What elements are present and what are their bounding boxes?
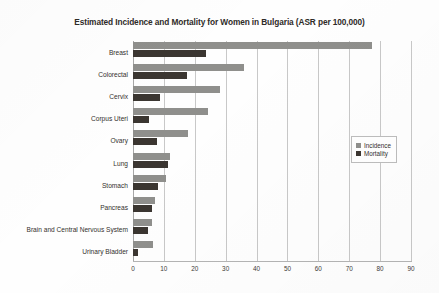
bar-mortality bbox=[133, 116, 149, 123]
legend-swatch-icon bbox=[356, 151, 361, 156]
bar-incidence bbox=[133, 175, 166, 182]
bar-mortality bbox=[133, 94, 160, 101]
category-row: Colorectal bbox=[133, 63, 411, 85]
x-tick-label: 70 bbox=[346, 265, 353, 272]
category-label: Lung bbox=[113, 159, 128, 166]
legend-swatch-icon bbox=[356, 143, 361, 148]
bar-mortality bbox=[133, 72, 187, 79]
category-label: Pancreas bbox=[100, 203, 128, 210]
category-row: Breast bbox=[133, 41, 411, 63]
bar-chart: Estimated Incidence and Mortality for Wo… bbox=[0, 0, 439, 293]
category-row: Stomach bbox=[133, 174, 411, 196]
category-label: Brain and Central Nervous System bbox=[26, 225, 128, 232]
bar-incidence bbox=[133, 197, 155, 204]
category-row: Pancreas bbox=[133, 196, 411, 218]
x-tick-label: 0 bbox=[131, 265, 135, 272]
bar-incidence bbox=[133, 153, 170, 160]
category-label: Cervix bbox=[109, 93, 128, 100]
legend-entry: Incidence bbox=[356, 142, 391, 149]
x-tick-label: 40 bbox=[253, 265, 260, 272]
legend-label: Incidence bbox=[364, 142, 391, 149]
bar-incidence bbox=[133, 241, 153, 248]
bar-mortality bbox=[133, 161, 168, 168]
x-axis-line bbox=[133, 261, 412, 262]
bar-mortality bbox=[133, 50, 206, 57]
chart-legend: IncidenceMortality bbox=[351, 136, 397, 163]
bar-mortality bbox=[133, 183, 158, 190]
bar-incidence bbox=[133, 108, 208, 115]
category-label: Urinary Bladder bbox=[82, 247, 128, 254]
category-row: Brain and Central Nervous System bbox=[133, 218, 411, 240]
bar-mortality bbox=[133, 205, 152, 212]
x-tick-label: 80 bbox=[377, 265, 384, 272]
bar-incidence bbox=[133, 86, 220, 93]
x-tick-label: 90 bbox=[407, 265, 414, 272]
bar-mortality bbox=[133, 249, 138, 256]
gridline-90 bbox=[411, 41, 412, 262]
category-row: Corpus Uteri bbox=[133, 107, 411, 129]
category-label: Corpus Uteri bbox=[91, 115, 128, 122]
x-tick-label: 30 bbox=[222, 265, 229, 272]
x-tick-label: 50 bbox=[284, 265, 291, 272]
category-row: Urinary Bladder bbox=[133, 240, 411, 262]
category-row: Cervix bbox=[133, 85, 411, 107]
bar-mortality bbox=[133, 227, 148, 234]
x-tick-label: 20 bbox=[191, 265, 198, 272]
legend-entry: Mortality bbox=[356, 150, 391, 157]
category-label: Stomach bbox=[102, 181, 128, 188]
bar-incidence bbox=[133, 42, 372, 49]
category-label: Colorectal bbox=[98, 71, 128, 78]
bar-incidence bbox=[133, 64, 244, 71]
category-label: Ovary bbox=[110, 137, 128, 144]
x-tick-label: 60 bbox=[315, 265, 322, 272]
bar-incidence bbox=[133, 219, 152, 226]
x-tick-label: 10 bbox=[160, 265, 167, 272]
bar-mortality bbox=[133, 138, 157, 145]
bar-incidence bbox=[133, 130, 188, 137]
chart-title: Estimated Incidence and Mortality for Wo… bbox=[0, 17, 439, 27]
legend-label: Mortality bbox=[364, 150, 388, 157]
category-label: Breast bbox=[109, 49, 128, 56]
